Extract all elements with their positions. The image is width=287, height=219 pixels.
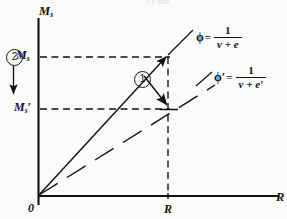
step-marker-1: 1 (134, 71, 151, 88)
y-axis-label: Ms (39, 5, 53, 19)
y-tick-ms-subscript: s (27, 54, 30, 63)
x-tick-label-r: R (164, 203, 172, 215)
equation-phi-prime-denominator: v + e′ (236, 78, 267, 90)
equation-label-phi: ϕ= 1 v + e (196, 24, 242, 50)
y-tick-ms-prime-mark: ′ (28, 100, 31, 114)
series-line-phi-prime (39, 85, 215, 195)
figure-canvas: y e pan Ms R 0 Ms Ms′ R 1 2 ϕ= 1 v + e ϕ… (0, 0, 287, 219)
equation-label-phi-prime: ϕ′= 1 v + e′ (214, 64, 266, 90)
series-leader-phi (168, 30, 193, 55)
equation-phi-prime-numerator: 1 (236, 64, 267, 76)
step-marker-2: 2 (6, 49, 23, 66)
origin-label: 0 (28, 202, 34, 214)
y-tick-ms-prime-text: M (14, 100, 25, 114)
equation-phi-prime-symbol: ϕ′ (214, 70, 225, 84)
y-axis-label-subscript: s (50, 10, 53, 19)
x-axis-label: R (276, 191, 284, 204)
equation-phi-numerator: 1 (214, 24, 242, 36)
diagram-vector-layer (0, 0, 287, 219)
equation-phi-equals: = (204, 31, 212, 43)
equation-phi-symbol: ϕ (196, 30, 204, 44)
y-axis-label-text: M (39, 4, 50, 18)
series-leader-phi-prime (196, 72, 212, 86)
equation-phi-fraction: 1 v + e (214, 24, 242, 50)
equation-phi-prime-equals: = (225, 71, 233, 83)
top-caption-remnant: y e pan (146, 0, 286, 4)
equation-phi-denominator: v + e (214, 38, 242, 50)
equation-phi-prime-fraction: 1 v + e′ (236, 64, 267, 90)
y-tick-label-ms-prime: Ms′ (14, 101, 31, 115)
